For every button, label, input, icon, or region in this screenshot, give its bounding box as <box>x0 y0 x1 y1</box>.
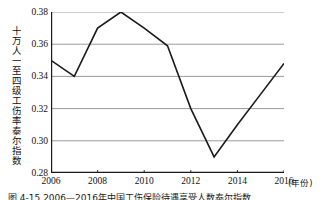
y-tick-label: 0.36 <box>22 39 48 49</box>
x-axis-unit-label: (年份) <box>288 176 313 188</box>
y-tick-label: 0.38 <box>22 7 48 17</box>
x-tick-label: 2014 <box>228 176 247 186</box>
gridlines <box>51 12 284 173</box>
y-tick-label: 0.34 <box>22 71 48 81</box>
figure-caption: 图 4-15 2006—2016年中国工伤保险待遇享受人数泰尔指数 <box>8 191 333 200</box>
x-tick-label: 2010 <box>135 176 154 186</box>
data-series-line <box>51 12 284 157</box>
plot-area <box>51 12 284 173</box>
y-axis-tick-labels: 0.280.300.320.340.360.38 <box>19 12 48 173</box>
figure-container: 十万人一至四级工伤率泰尔指数 0.280.300.320.340.360.38 … <box>0 0 333 200</box>
x-axis-tick-labels: 200620082010201220142016 <box>51 176 284 190</box>
x-tick-label: 2012 <box>181 176 200 186</box>
x-tick-label: 2008 <box>88 176 107 186</box>
line-chart-svg <box>51 12 284 173</box>
y-tick-label: 0.32 <box>22 104 48 114</box>
y-tick-label: 0.30 <box>22 136 48 146</box>
x-tick-label: 2006 <box>42 176 61 186</box>
